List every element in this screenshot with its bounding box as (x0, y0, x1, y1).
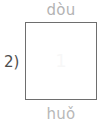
pinyin-label-top: dòu (25, 0, 97, 20)
item-number-label: 2) (4, 51, 23, 73)
worksheet-exercise-item: dòu 2) 1 huǒ (0, 0, 106, 126)
pinyin-label-bottom: huǒ (25, 104, 97, 125)
character-writing-box[interactable]: 1 (25, 22, 97, 100)
faint-scan-artifact-mark: 1 (54, 50, 68, 72)
